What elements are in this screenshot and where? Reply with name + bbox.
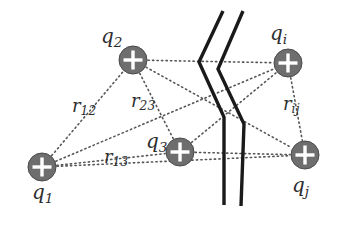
figure-canvas: q1q2q3qiqjr12r23r13rij (0, 0, 339, 238)
distance-label-r12-subscript: 12 (81, 104, 97, 118)
distance-label-r13: r13 (104, 148, 129, 169)
plus-icon-vertical-qi (286, 53, 289, 72)
charge-marker-q1[interactable] (28, 153, 56, 181)
charge-label-q2-subscript: 2 (114, 34, 123, 50)
separation-line-q2-qi (148, 60, 273, 62)
charge-marker-qi[interactable] (274, 49, 302, 77)
charge-label-q3-subscript: 3 (159, 139, 168, 155)
charge-label-q2: q2 (101, 26, 123, 49)
charge-label-qi: qi (270, 23, 287, 46)
distance-label-rij-subscript: ij (292, 102, 300, 116)
charge-label-q1: q1 (32, 182, 54, 205)
charge-label-qi-base: q (270, 21, 283, 45)
distance-label-r23-base: r (131, 90, 140, 111)
charge-label-q3-base: q (146, 129, 159, 153)
plus-icon-vertical-q1 (40, 157, 43, 176)
plus-icon-vertical-qj (303, 145, 306, 164)
distance-label-rij-base: r (283, 93, 292, 114)
break-symbol-group (199, 11, 244, 206)
charge-label-qi-subscript: i (283, 31, 288, 47)
charge-label-q1-base: q (32, 180, 45, 204)
charge-label-qj: qj (292, 175, 309, 198)
distance-label-r12: r12 (72, 97, 97, 118)
charge-marker-q2[interactable] (119, 46, 147, 74)
distance-label-r23: r23 (131, 92, 156, 113)
distance-label-r13-base: r (104, 146, 113, 167)
charge-label-q1-subscript: 1 (45, 190, 54, 206)
plus-icon-vertical-q2 (131, 50, 134, 69)
distance-label-r23-subscript: 23 (140, 99, 156, 113)
separation-line-q3-qi (192, 73, 277, 143)
charge-marker-qj[interactable] (291, 141, 319, 169)
distance-label-r12-base: r (72, 95, 81, 116)
charge-label-q2-base: q (101, 24, 114, 48)
distance-label-rij: rij (283, 95, 300, 116)
plus-icon-vertical-q3 (178, 142, 181, 161)
charge-label-q3: q3 (146, 131, 168, 154)
break-line-left (199, 11, 224, 205)
charge-label-qj-subscript: j (305, 183, 309, 199)
charge-marker-q3[interactable] (166, 138, 194, 166)
charge-label-qj-base: q (292, 173, 305, 197)
distance-label-r13-subscript: 13 (113, 155, 129, 169)
